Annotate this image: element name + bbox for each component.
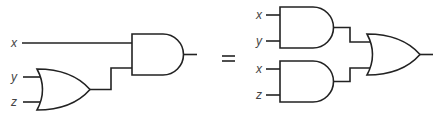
label-left-y: y [10, 70, 18, 84]
equals-sign [222, 56, 235, 61]
and-gate-left [132, 34, 183, 75]
and-gate-top [280, 7, 333, 48]
label-right-x2: x [255, 62, 263, 76]
logic-diagram: x y z x y x z [0, 0, 445, 117]
label-left-x: x [10, 36, 18, 50]
wire-or-to-and [90, 68, 132, 90]
label-right-x1: x [255, 8, 263, 22]
right-circuit: x y x z [255, 7, 433, 102]
label-right-y: y [255, 34, 263, 48]
left-circuit: x y z [10, 34, 197, 110]
label-left-z: z [10, 95, 17, 109]
and-gate-bottom [280, 61, 333, 102]
label-right-z: z [255, 88, 262, 102]
or-gate-right [367, 34, 420, 75]
wire-and-top-to-or [334, 28, 372, 43]
wire-and-bottom-to-or [334, 68, 372, 82]
or-gate-left [37, 69, 90, 110]
